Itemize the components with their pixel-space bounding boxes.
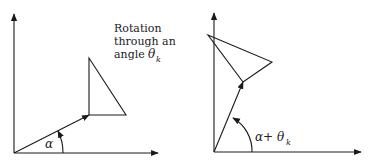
caption-line-2: through an [114,35,176,48]
right-panel: α+ θ k [208,13,361,152]
right-angle-arc [233,118,252,152]
theta-subscript: k [156,55,161,64]
left-triangle [89,58,126,115]
left-angle-arc [58,131,63,153]
right-position-vector [214,82,243,152]
rotation-diagram: α Rotation through an angle θ k α+ θ k [0,0,371,166]
alpha-plus-theta-text: α+ θ [255,130,285,144]
rotation-caption: Rotation through an angle θ k [114,22,176,64]
theta-symbol: θ [148,47,156,61]
alpha-plus-theta-label: α+ θ k [255,130,291,147]
right-triangle [208,35,272,82]
alpha-plus-theta-subscript: k [286,138,291,147]
caption-line-3: angle [114,48,145,61]
left-panel: α Rotation through an angle θ k [14,14,176,153]
alpha-label: α [45,137,53,151]
caption-line-1: Rotation [114,22,162,35]
